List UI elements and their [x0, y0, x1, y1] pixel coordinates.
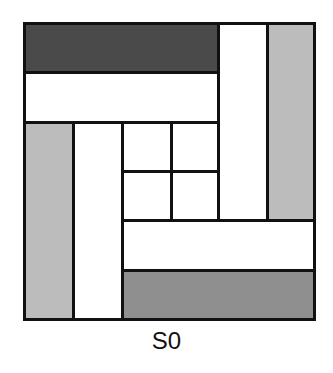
- center-cell-bottom-left: [121, 170, 173, 222]
- diagram-caption: S0: [0, 327, 333, 355]
- bottom-white-bar: [121, 219, 316, 272]
- center-cell-top-right: [170, 121, 220, 173]
- top-dark-bar: [23, 22, 220, 74]
- center-cell-bottom-right: [170, 170, 220, 222]
- left-light-column: [23, 121, 75, 321]
- right-light-column: [266, 22, 316, 222]
- center-cell-top-left: [121, 121, 173, 173]
- bottom-medium-bar: [121, 269, 316, 321]
- left-white-column: [72, 121, 124, 321]
- right-white-column: [217, 22, 269, 222]
- top-white-bar: [23, 71, 220, 124]
